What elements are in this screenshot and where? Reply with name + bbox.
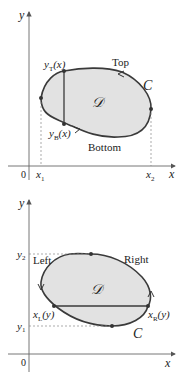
rightmost-point <box>149 107 153 111</box>
curve-c-label: C <box>143 78 153 93</box>
y-bottom-label: yB(x) <box>48 127 71 142</box>
x2-label: x2 <box>145 168 155 183</box>
diagram-canvas: y x 0 x1 x2 yT(x) yB(x) Top Bottom C 𝒟 y <box>0 0 185 380</box>
y2-label: y2 <box>16 248 26 262</box>
bottom-diagram: y x 0 y2 y1 xL(y) xR(y) Left Right C 𝒟 <box>8 196 175 372</box>
origin-label: 0 <box>21 357 26 368</box>
right-label: Right <box>124 253 148 265</box>
top-point <box>89 252 93 256</box>
leftmost-point <box>39 96 43 100</box>
origin-label: 0 <box>21 169 26 180</box>
x-axis-label: x <box>164 356 171 370</box>
y1-label: y1 <box>16 320 26 334</box>
bottom-point <box>110 324 114 328</box>
x-right-label: xR(y) <box>147 308 170 323</box>
x-axis-label: x <box>168 167 175 181</box>
x1-label: x1 <box>35 168 45 183</box>
top-diagram: y x 0 x1 x2 yT(x) yB(x) Top Bottom C 𝒟 <box>8 8 175 183</box>
top-label: Top <box>112 56 129 68</box>
bottom-label: Bottom <box>88 141 121 153</box>
x-left-label: xL(y) <box>32 308 55 323</box>
y-axis-label: y <box>18 196 25 210</box>
curve-c-label: C <box>133 326 143 341</box>
y-axis-label: y <box>18 8 25 22</box>
bottom-slice-point <box>62 122 66 126</box>
left-label: Left <box>33 254 51 266</box>
